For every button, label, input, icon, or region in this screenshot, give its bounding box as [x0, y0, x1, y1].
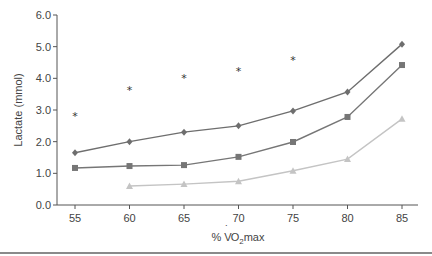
asterisk-marker: * — [72, 110, 78, 123]
x-tick-label: 80 — [341, 212, 353, 224]
square-marker — [399, 62, 405, 68]
y-tick-label: 5.0 — [36, 41, 51, 53]
diamond-marker — [72, 149, 78, 156]
asterisk-marker: * — [127, 84, 133, 97]
x-axis: 55606570758085 — [57, 205, 418, 224]
bottom-divider — [0, 252, 432, 254]
asterisk-marker: * — [181, 72, 187, 85]
triangle-series — [126, 115, 406, 189]
diamond-marker — [290, 107, 296, 114]
x-tick-label: 70 — [232, 212, 244, 224]
y-axis: 0.01.02.03.04.05.06.0 — [36, 9, 57, 211]
vdot-accent: ˙ — [225, 223, 229, 235]
diamond-marker — [127, 138, 133, 145]
y-axis-title: Lactate (mmol) — [12, 73, 24, 146]
square-marker — [127, 163, 133, 169]
square-marker — [345, 114, 351, 120]
x-tick-label: 65 — [178, 212, 190, 224]
square-marker — [290, 139, 296, 145]
square-marker — [236, 154, 242, 160]
y-tick-label: 0.0 — [36, 199, 51, 211]
significance-markers: ***** — [72, 54, 296, 123]
asterisk-marker: * — [236, 65, 242, 78]
x-tick-label: 60 — [123, 212, 135, 224]
square-marker — [72, 165, 78, 171]
asterisk-marker: * — [290, 54, 296, 67]
triangle-marker — [399, 115, 406, 122]
x-tick-label: 55 — [69, 212, 81, 224]
y-tick-label: 3.0 — [36, 104, 51, 116]
x-tick-label: 75 — [287, 212, 299, 224]
x-axis-title: % VO2max — [212, 231, 265, 246]
y-tick-label: 2.0 — [36, 136, 51, 148]
square-series — [72, 62, 405, 171]
diamond-series — [72, 41, 405, 157]
y-tick-label: 4.0 — [36, 72, 51, 84]
diamond-marker — [181, 129, 187, 136]
y-tick-label: 1.0 — [36, 167, 51, 179]
series-layer — [72, 41, 406, 189]
square-marker — [181, 162, 187, 168]
diamond-marker — [236, 122, 242, 129]
lactate-line-chart: 0.01.02.03.04.05.06.0 55606570758085 ***… — [0, 0, 432, 256]
y-tick-label: 6.0 — [36, 9, 51, 21]
x-tick-label: 85 — [396, 212, 408, 224]
